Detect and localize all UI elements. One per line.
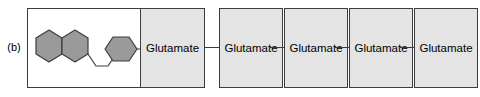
structure-pane (28, 9, 140, 87)
residue-unit-4: Glutamate (349, 8, 413, 88)
molecular-structure-graphic (28, 9, 140, 87)
naphthalene-fused-bicyclic-ring-right (62, 30, 88, 62)
residue-connector (400, 47, 414, 48)
residue-label: Glutamate (146, 42, 199, 54)
residue-connector (270, 47, 284, 48)
compound-head-unit: Glutamate (27, 8, 205, 88)
benzene-ring (105, 37, 137, 61)
residue-connector (205, 47, 219, 48)
residue-unit-2: Glutamate (219, 8, 283, 88)
residue-label: Glutamate (224, 42, 277, 54)
residue-unit-1: Glutamate (140, 9, 204, 87)
residue-label: Glutamate (419, 42, 472, 54)
residue-connector (335, 47, 349, 48)
residue-label: Glutamate (289, 42, 342, 54)
residue-label: Glutamate (354, 42, 407, 54)
naphthalene-fused-bicyclic-ring-left (36, 30, 62, 62)
panel-label: (b) (2, 40, 26, 54)
polyglutamate-figure: (b) Glutamate Glutamate Glutamate (0, 0, 480, 97)
residue-unit-5: Glutamate (414, 8, 478, 88)
residue-unit-3: Glutamate (284, 8, 348, 88)
